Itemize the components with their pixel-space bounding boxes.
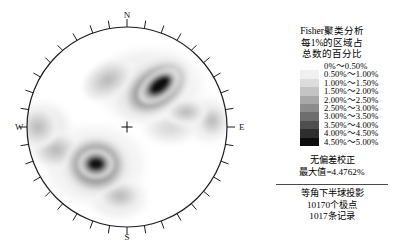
note-projection-type: 等角下半球投影 <box>262 188 402 200</box>
legend-panel: Fisher聚类分析 每1%的区域占 总数的百分比 0%～0.50%0.50%～… <box>262 0 402 244</box>
scale-swatch <box>300 70 319 78</box>
legend-divider <box>276 184 388 185</box>
scale-swatch <box>300 104 319 112</box>
legend-title-line-2: 每1%的区域占 <box>262 38 402 50</box>
stereonet-plot: N S E W <box>0 0 262 244</box>
note-pole-count: 10170个极点 <box>262 200 402 212</box>
secondary-ssw-cluster <box>64 136 128 194</box>
compass-label-south: S <box>124 232 129 242</box>
scale-swatch <box>300 62 319 70</box>
scale-swatch <box>300 79 319 87</box>
scale-swatch <box>300 96 319 104</box>
legend-title-line-3: 总数的百分比 <box>262 49 402 61</box>
scale-swatch <box>300 129 319 137</box>
note-bias-correction: 无偏差校正 <box>262 155 402 167</box>
scale-swatch <box>300 112 319 120</box>
compass-label-north: N <box>124 10 131 20</box>
legend-title-line-1: Fisher聚类分析 <box>262 26 402 38</box>
note-record-count: 1017条记录 <box>262 211 402 223</box>
compass-label-west: W <box>15 122 24 132</box>
scale-row: 4.50%～5.00% <box>300 138 397 146</box>
scale-swatch <box>300 87 319 95</box>
scale-swatch <box>300 138 319 146</box>
note-max-value: 最大值=4.4762% <box>262 167 402 179</box>
density-scale-bar: 0%～0.50%0.50%～1.00%1.00%～1.50%1.50%～2.00… <box>300 62 397 146</box>
scale-swatch <box>300 121 319 129</box>
compass-label-east: E <box>239 122 245 132</box>
stereonet-figure: N S E W Fisher聚类分析 每1%的区域占 总数的百分比 0%～0.5… <box>0 0 402 244</box>
scale-range-label: 4.50%～5.00% <box>324 138 379 146</box>
